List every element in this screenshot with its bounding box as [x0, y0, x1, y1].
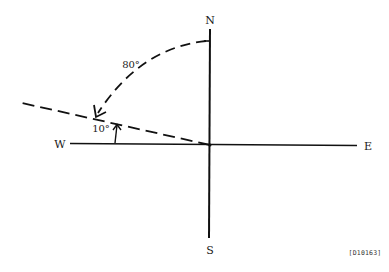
north-label: N: [205, 15, 215, 26]
west-east-axis: [70, 144, 357, 146]
figure-id: [D10163]: [349, 249, 382, 257]
origin-point: [209, 144, 212, 147]
arc-80-degrees: [98, 41, 206, 113]
north-south-axis: [209, 29, 210, 238]
compass-diagram: N S W E 80° 10° [D10163]: [0, 0, 389, 272]
compass-graphic: [0, 0, 389, 272]
angle-80-label: 80°: [122, 60, 140, 70]
west-label: W: [54, 139, 65, 150]
angle-10-label: 10°: [92, 124, 110, 134]
south-label: S: [206, 245, 214, 256]
east-label: E: [364, 141, 372, 152]
